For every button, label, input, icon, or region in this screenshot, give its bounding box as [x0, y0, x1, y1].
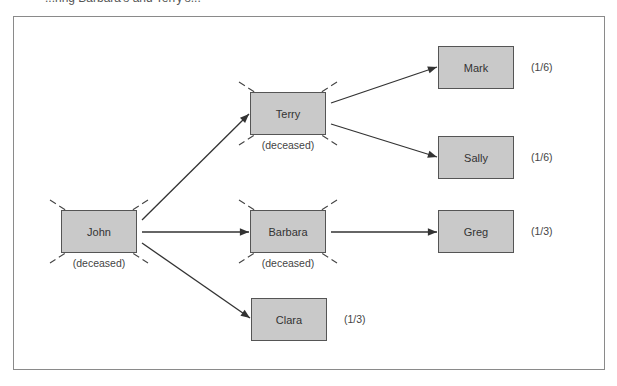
- edge-john-clara: [142, 243, 250, 318]
- node-label: Sally: [464, 152, 488, 164]
- node-clara: Clara: [251, 298, 327, 341]
- node-label: Barbara: [268, 226, 307, 238]
- node-label: Clara: [276, 314, 302, 326]
- status-barbara: (deceased): [248, 257, 328, 269]
- node-sally: Sally: [438, 136, 514, 179]
- share-mark: (1/6): [531, 61, 553, 73]
- node-label: Greg: [464, 226, 488, 238]
- node-barbara: Barbara: [250, 210, 326, 253]
- node-greg: Greg: [438, 210, 514, 253]
- status-john: (deceased): [59, 257, 139, 269]
- node-mark: Mark: [438, 46, 514, 89]
- node-label: Terry: [276, 108, 300, 120]
- node-label: Mark: [464, 62, 488, 74]
- edge-terry-mark: [331, 67, 437, 103]
- share-sally: (1/6): [531, 151, 553, 163]
- node-john: John: [61, 210, 137, 253]
- share-greg: (1/3): [531, 225, 553, 237]
- edge-john-terry: [142, 114, 249, 220]
- edge-terry-sally: [331, 124, 437, 157]
- share-clara: (1/3): [344, 313, 366, 325]
- node-terry: Terry: [250, 92, 326, 135]
- node-label: John: [87, 226, 111, 238]
- status-terry: (deceased): [248, 139, 328, 151]
